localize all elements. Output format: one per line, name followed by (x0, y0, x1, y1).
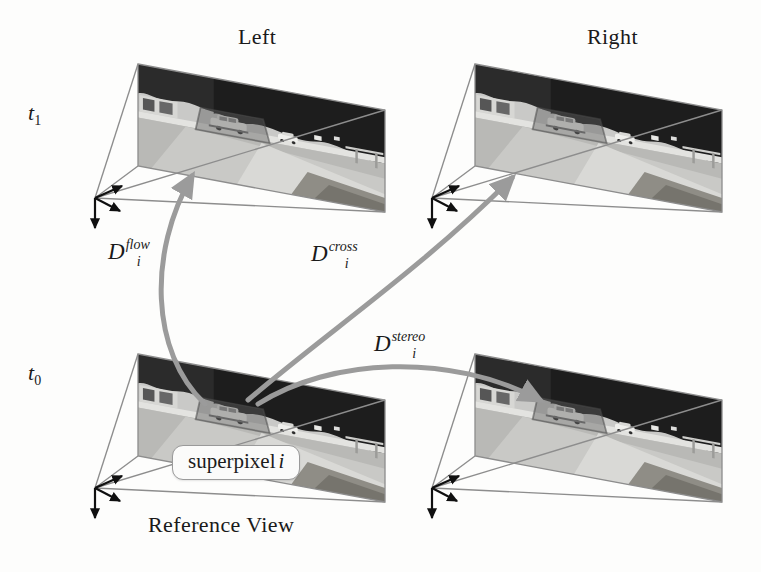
distance-label-stereo-superscript: stereo (392, 329, 426, 344)
distance-label-stereo-base: D (374, 331, 391, 356)
distance-label-cross-superscript: cross (329, 239, 358, 254)
time-label-t1: t1 (28, 100, 41, 129)
camera-frustum-top-right (432, 64, 722, 212)
distance-label-flow-base: D (108, 239, 125, 264)
distance-label-cross-base: D (311, 241, 328, 266)
camera-axes-top-right (432, 186, 459, 228)
time-label-t1-sub: 1 (34, 113, 41, 128)
figure-canvas: Left Right t1 t0 Dflowi Dcrossi Dstereoi… (0, 0, 761, 572)
bottom-caption: Reference View (148, 512, 294, 538)
distance-label-flow-subscript: i (137, 254, 141, 269)
superpixel-callout-prefix: superpixel (188, 449, 275, 473)
geometry-layer (0, 0, 761, 572)
camera-frustum-top-left (95, 64, 385, 212)
correspondence-curve-flow (161, 176, 205, 404)
camera-axes-top-left (95, 186, 122, 228)
column-title-right: Right (587, 24, 638, 50)
distance-label-cross: Dcrossi (311, 241, 361, 267)
distance-label-stereo: Dstereoi (374, 331, 428, 357)
superpixel-callout: superpixeli (172, 445, 300, 480)
time-label-t0-sub: 0 (34, 373, 41, 388)
column-title-left: Left (238, 24, 276, 50)
distance-label-flow-superscript: flow (126, 237, 150, 252)
correspondence-curve-stereo (258, 367, 540, 404)
distance-label-stereo-subscript: i (412, 346, 416, 361)
distance-label-cross-subscript: i (345, 256, 349, 271)
superpixel-callout-index: i (275, 449, 284, 473)
camera-axes-bottom-left (95, 476, 122, 518)
camera-axes-bottom-right (432, 476, 459, 518)
distance-label-flow: Dflowi (108, 239, 153, 265)
time-label-t0: t0 (28, 360, 41, 389)
